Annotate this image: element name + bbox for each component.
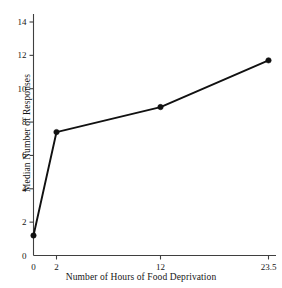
y-tick-label: 14 xyxy=(0,17,27,27)
y-tick-label: 2 xyxy=(0,217,27,227)
x-tick-marks xyxy=(57,256,269,260)
x-axis-title: Number of Hours of Food Deprivation xyxy=(0,272,282,282)
data-line-series xyxy=(34,60,269,235)
x-tick-label: 0 xyxy=(31,262,36,272)
x-tick-label: 12 xyxy=(156,262,165,272)
y-axis-title: Median Number of Responses xyxy=(22,38,32,228)
y-tick-label: 12 xyxy=(0,50,27,60)
data-point-markers xyxy=(31,58,271,239)
axis-lines xyxy=(34,14,277,256)
y-tick-label: 8 xyxy=(0,117,27,127)
y-tick-label: 4 xyxy=(0,184,27,194)
x-tick-label: 23.5 xyxy=(261,262,277,272)
y-tick-label: 6 xyxy=(0,150,27,160)
y-tick-label: 0 xyxy=(0,251,27,261)
y-tick-label: 10 xyxy=(0,84,27,94)
plot-area xyxy=(0,0,282,288)
chart-figure: Median Number of Responses Number of Hou… xyxy=(0,0,282,288)
x-tick-label: 2 xyxy=(54,262,59,272)
